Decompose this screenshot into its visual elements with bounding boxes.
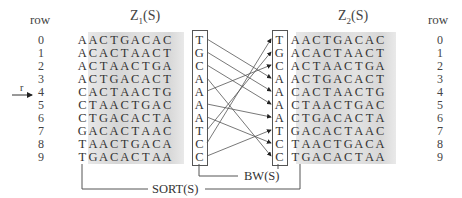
mapping-arrow	[207, 65, 271, 91]
mapping-arrow	[207, 39, 271, 143]
r-marker-label: r	[20, 82, 23, 93]
mapping-arrow	[207, 65, 271, 104]
mapping-arrow	[207, 39, 271, 78]
mapping-arrow	[207, 78, 271, 156]
bw-label: BW(S)	[242, 169, 281, 184]
connector-lines	[0, 0, 462, 198]
mapping-arrow	[207, 117, 271, 143]
mapping-arrow	[207, 52, 271, 91]
mapping-arrow	[207, 104, 271, 117]
mapping-arrow	[207, 130, 271, 156]
sort-label: SORT(S)	[150, 182, 200, 197]
